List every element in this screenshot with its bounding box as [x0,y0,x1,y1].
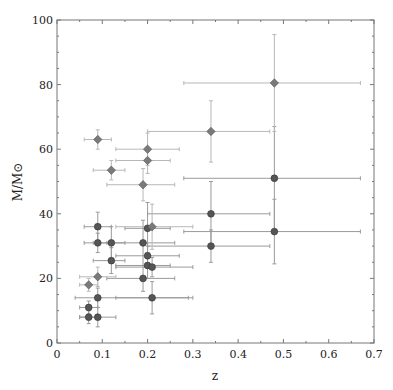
data-point-circle [144,252,151,259]
data-point-circle [85,314,92,321]
x-tick-label: 0.1 [94,348,112,361]
data-point-circle [108,239,115,246]
x-tick-label: 0 [54,348,61,361]
y-tick-label: 80 [39,79,53,92]
data-point-diamond [107,166,115,174]
data-point-circle [94,223,101,230]
data-markers [85,79,279,321]
data-point-circle [94,314,101,321]
x-tick-label: 0.2 [139,348,157,361]
data-point-circle [85,304,92,311]
error-bars [75,35,360,327]
data-point-diamond [94,273,102,281]
y-axis-label: M/M⊙ [11,163,25,202]
x-tick-label: 0.6 [320,348,338,361]
data-point-circle [208,243,215,250]
data-point-diamond [143,145,151,153]
x-axis-label: z [212,369,218,383]
data-point-circle [149,264,156,271]
y-tick-label: 0 [46,337,53,350]
data-point-circle [94,239,101,246]
data-point-circle [271,228,278,235]
data-point-circle [140,239,147,246]
x-tick-label: 0.4 [229,348,247,361]
data-point-diamond [143,156,151,164]
data-point-diamond [94,135,102,143]
scatter-chart: 00.10.20.30.40.50.60.7020406080100 z M/M… [0,0,393,390]
data-point-diamond [207,127,215,135]
data-point-circle [149,294,156,301]
data-point-circle [140,275,147,282]
axis-ticks: 00.10.20.30.40.50.60.7020406080100 [32,14,383,361]
y-tick-label: 60 [39,143,53,156]
y-tick-label: 40 [39,208,53,221]
y-tick-label: 20 [39,272,53,285]
x-tick-label: 0.7 [365,348,383,361]
plot-frame [57,20,374,343]
data-point-circle [108,257,115,264]
data-point-diamond [270,79,278,87]
x-tick-label: 0.5 [275,348,293,361]
data-point-circle [208,210,215,217]
data-point-diamond [139,181,147,189]
data-point-circle [271,175,278,182]
x-tick-label: 0.3 [184,348,202,361]
y-tick-label: 100 [32,14,53,27]
data-point-diamond [85,281,93,289]
data-point-circle [94,294,101,301]
